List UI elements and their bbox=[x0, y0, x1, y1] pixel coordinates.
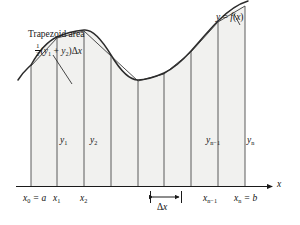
ordinate-label-yn-1: yn−1 bbox=[206, 136, 220, 146]
ordinate-yn-subscript: n bbox=[251, 139, 254, 146]
ordinate-label-y2: y2 bbox=[90, 136, 97, 146]
ordinate-label-y1: y1 bbox=[60, 136, 67, 146]
tick-label-x1: x1 bbox=[53, 194, 60, 204]
formula-x: x bbox=[78, 46, 82, 56]
tick-label-xn: xn = b bbox=[234, 194, 257, 204]
tick-x1-subscript: 1 bbox=[57, 197, 60, 204]
formula-y1-subscript: 1 bbox=[48, 50, 51, 57]
ordinate-y2-subscript: 2 bbox=[94, 139, 97, 146]
delta-x-label: Δx bbox=[157, 203, 167, 213]
tick-label-xn-1: xn−1 bbox=[203, 194, 217, 204]
delta-x-variable: x bbox=[163, 202, 167, 212]
annotation-title: Trapezoid area bbox=[28, 29, 84, 40]
trapezoidal-rule-figure: Trapezoid area 12(y1 + y2)Δx y = f(x) x0… bbox=[0, 0, 300, 225]
x-axis-label: x bbox=[277, 180, 281, 190]
curve-label-equals: = bbox=[223, 12, 228, 22]
curve-label-paren-close: ) bbox=[240, 12, 243, 22]
tick-x2-subscript: 2 bbox=[84, 197, 87, 204]
tick-xn-suffix: = b bbox=[241, 193, 257, 203]
curve-equation-label: y = f(x) bbox=[216, 13, 244, 23]
tick-x0-suffix: = a bbox=[30, 193, 46, 203]
ordinate-y1-subscript: 1 bbox=[64, 139, 67, 146]
ordinate-label-yn: yn bbox=[247, 136, 254, 146]
ordinate-yn-1-subscript: n−1 bbox=[210, 139, 220, 146]
trapezoid-area-annotation: Trapezoid area 12(y1 + y2)Δx bbox=[28, 29, 84, 58]
tick-xn-1-subscript: n−1 bbox=[207, 197, 217, 204]
tick-label-x2: x2 bbox=[80, 194, 87, 204]
tick-label-x0: x0 = a bbox=[23, 194, 46, 204]
formula-plus: + bbox=[53, 46, 58, 56]
annotation-formula: 12(y1 + y2)Δx bbox=[35, 43, 84, 58]
curve-label-y: y bbox=[216, 12, 220, 22]
